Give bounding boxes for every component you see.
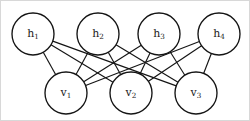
nodes-group: h1h2h3h4v1v2v3 <box>12 13 240 114</box>
node-h3[interactable]: h3 <box>138 13 180 55</box>
node-v2[interactable]: v2 <box>110 72 152 114</box>
edge-h2-v2 <box>108 52 121 74</box>
edge-h3-v3 <box>170 52 185 75</box>
edge-h4-v3 <box>204 54 212 74</box>
node-v1[interactable]: v1 <box>45 72 87 114</box>
figure-container: h1h2h3h4v1v2v3 <box>0 0 250 121</box>
node-h4[interactable]: h4 <box>198 13 240 55</box>
node-h1[interactable]: h1 <box>12 13 54 55</box>
edge-h2-v1 <box>76 52 88 74</box>
edge-h1-v1 <box>43 52 56 74</box>
bipartite-graph: h1h2h3h4v1v2v3 <box>1 1 250 121</box>
node-v3[interactable]: v3 <box>175 72 217 114</box>
node-h2[interactable]: h2 <box>77 13 119 55</box>
